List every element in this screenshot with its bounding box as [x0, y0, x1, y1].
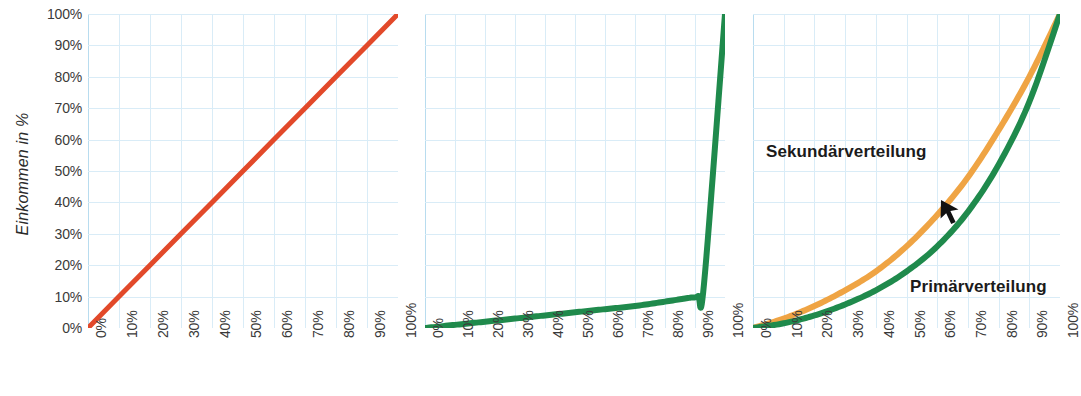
y-tick-label: 90% — [55, 37, 82, 53]
annotation-primaerverteilung: Primärverteilung — [910, 277, 1047, 297]
y-tick-label: 30% — [55, 226, 82, 242]
x-tick-label: 30% — [850, 311, 866, 338]
plot-svg-1 — [88, 14, 398, 328]
y-tick-label: 50% — [55, 163, 82, 179]
y-tick-label: 60% — [55, 132, 82, 148]
y-tick-label: 40% — [55, 194, 82, 210]
chart-panel-extreme-ungleichverteilung: 0%10%20%30%40%50%60%70%80%90%100% — [425, 0, 725, 396]
x-tick-label: 40% — [550, 311, 566, 338]
plot-area-1 — [88, 14, 398, 328]
x-tick-label: 90% — [372, 311, 388, 338]
gridlines-2 — [425, 14, 725, 328]
x-tick-label: 10% — [124, 311, 140, 338]
y-tick-label: 20% — [55, 257, 82, 273]
y-tick-label: 70% — [55, 100, 82, 116]
y-tick-label: 10% — [55, 289, 82, 305]
y-tick-label: 0% — [62, 320, 82, 336]
x-tick-label: 0% — [430, 318, 446, 338]
x-tick-label: 50% — [248, 311, 264, 338]
x-tick-label: 80% — [670, 311, 686, 338]
x-tick-label: 50% — [580, 311, 596, 338]
x-tick-label: 50% — [912, 311, 928, 338]
plot-area-2 — [425, 14, 725, 328]
x-tick-label: 0% — [93, 318, 109, 338]
x-tick-label: 60% — [279, 311, 295, 338]
x-tick-label: 60% — [942, 311, 958, 338]
pointer-arrow-icon — [938, 197, 968, 231]
x-tick-label: 30% — [186, 311, 202, 338]
plot-svg-2 — [425, 14, 725, 328]
x-tick-label: 70% — [973, 311, 989, 338]
chart-panel-primaer-sekundaerverteilung: Sekundärverteilung Primärverteilung 0%10… — [753, 0, 1073, 396]
x-tick-label: 70% — [310, 311, 326, 338]
x-tick-label: 80% — [1004, 311, 1020, 338]
x-tick-label: 20% — [819, 311, 835, 338]
y-tick-label: 100% — [47, 6, 82, 22]
x-tick-label: 40% — [217, 311, 233, 338]
x-tick-label: 0% — [758, 318, 774, 338]
x-tick-label: 10% — [460, 311, 476, 338]
x-tick-label: 100% — [403, 303, 419, 338]
x-tick-label: 40% — [881, 311, 897, 338]
x-tick-label: 100% — [730, 303, 746, 338]
y-tick-label: 80% — [55, 69, 82, 85]
annotation-sekundaerverteilung: Sekundärverteilung — [766, 142, 927, 162]
x-tick-label: 100% — [1065, 303, 1081, 338]
x-tick-label: 60% — [610, 311, 626, 338]
x-tick-label: 80% — [341, 311, 357, 338]
x-tick-label: 90% — [700, 311, 716, 338]
x-tick-label: 90% — [1034, 311, 1050, 338]
x-tick-label: 10% — [789, 311, 805, 338]
chart-panel-gleichverteilung: 0%10%20%30%40%50%60%70%80%90%100% 0%10%2… — [0, 0, 410, 396]
x-tick-label: 20% — [490, 311, 506, 338]
x-tick-label: 20% — [155, 311, 171, 338]
x-tick-label: 30% — [520, 311, 536, 338]
x-tick-label: 70% — [640, 311, 656, 338]
